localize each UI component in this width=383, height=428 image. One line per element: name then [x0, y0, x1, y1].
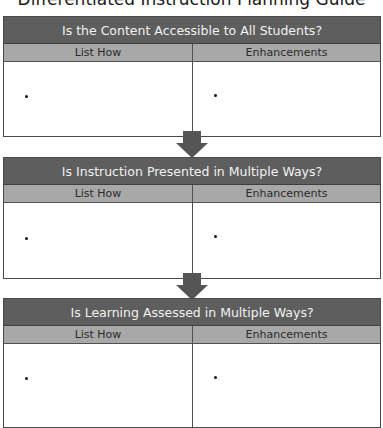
- section-columns: List How Enhancements: [4, 44, 380, 136]
- column-header-list-how: List How: [4, 44, 193, 62]
- section-question: Is Instruction Presented in Multiple Way…: [4, 158, 380, 185]
- bullet-point-icon: [25, 237, 28, 240]
- bullet-point-icon: [214, 235, 217, 238]
- column-header-enhancements: Enhancements: [193, 44, 380, 62]
- bullet-point-icon: [25, 95, 28, 98]
- column-header-list-how: List How: [4, 185, 193, 203]
- column-header-enhancements: Enhancements: [193, 185, 380, 203]
- section-question: Is Learning Assessed in Multiple Ways?: [4, 299, 380, 326]
- section-learning-assessed: Is Learning Assessed in Multiple Ways? L…: [3, 298, 381, 428]
- down-arrow-icon: [176, 131, 208, 158]
- page-title: Differentiated Instruction Planning Guid…: [0, 0, 383, 9]
- down-arrow-icon: [176, 273, 208, 300]
- section-instruction-presented: Is Instruction Presented in Multiple Way…: [3, 157, 381, 279]
- section-question: Is the Content Accessible to All Student…: [4, 17, 380, 44]
- section-columns: List How Enhancements: [4, 185, 380, 278]
- column-header-list-how: List How: [4, 326, 193, 344]
- enhancements-cell[interactable]: [193, 62, 380, 136]
- enhancements-cell[interactable]: [193, 203, 380, 278]
- list-how-cell[interactable]: [4, 344, 193, 427]
- bullet-point-icon: [214, 94, 217, 97]
- list-how-cell[interactable]: [4, 203, 193, 278]
- section-content-accessible: Is the Content Accessible to All Student…: [3, 16, 381, 137]
- column-header-enhancements: Enhancements: [193, 326, 380, 344]
- enhancements-cell[interactable]: [193, 344, 380, 427]
- section-columns: List How Enhancements: [4, 326, 380, 427]
- bullet-point-icon: [25, 377, 28, 380]
- list-how-cell[interactable]: [4, 62, 193, 136]
- bullet-point-icon: [214, 376, 217, 379]
